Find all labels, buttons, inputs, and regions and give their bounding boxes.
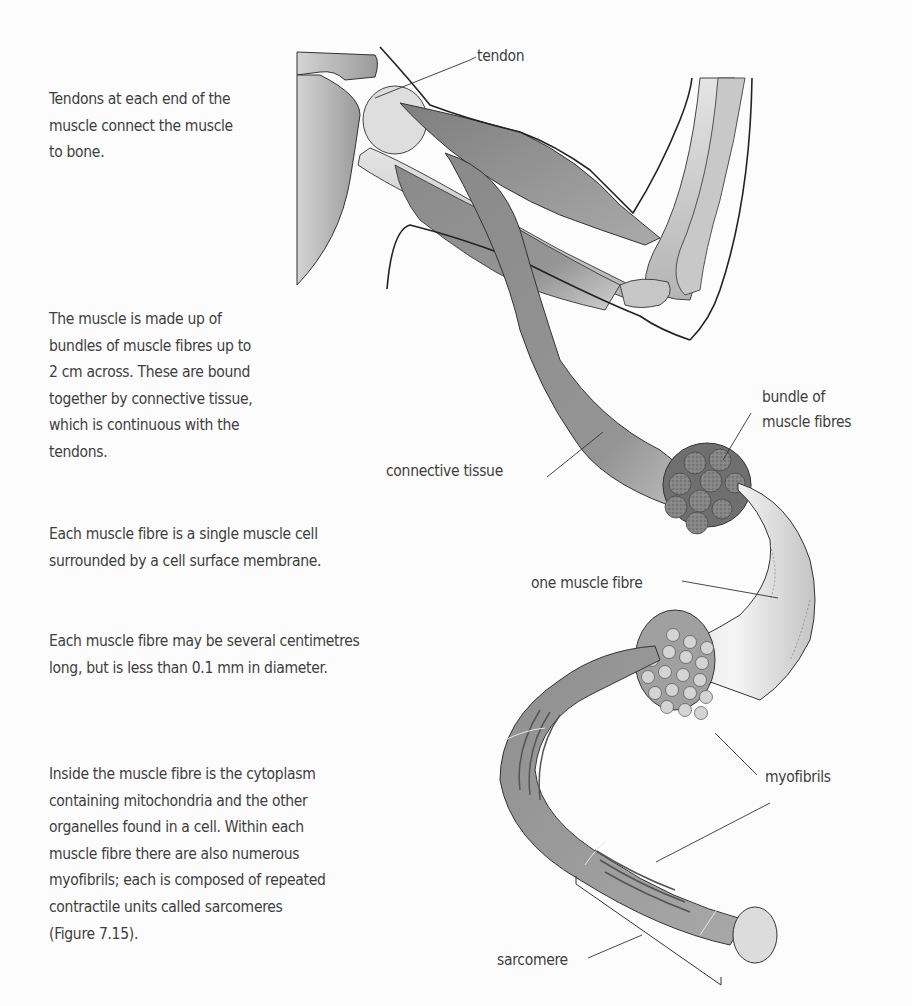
annotation-line: tendons. — [49, 439, 252, 466]
annotation-line: to bone. — [49, 139, 233, 166]
annotation-fibre-size: Each muscle fibre may be several centime… — [49, 628, 360, 681]
label-tendon: tendon — [477, 47, 524, 65]
label-bundle-of-muscle-fibres: bundle of muscle fibres — [762, 385, 851, 435]
annotation-line: which is continuous with the — [49, 412, 252, 439]
annotation-line: (Figure 7.15). — [49, 921, 326, 948]
annotation-line: 2 cm across. These are bound — [49, 359, 252, 386]
label-bundle-line-1: bundle of — [762, 385, 851, 410]
myofibril-body-leader — [656, 803, 770, 862]
annotation-line: contractile units called sarcomeres — [49, 894, 326, 921]
label-myofibrils: myofibrils — [765, 768, 831, 786]
annotation-line: Inside the muscle fibre is the cytoplasm — [49, 761, 326, 788]
annotation-line: long, but is less than 0.1 mm in diamete… — [49, 655, 360, 682]
annotation-line: muscle connect the muscle — [49, 113, 233, 140]
myofibrils-leader — [715, 733, 757, 775]
bundle-leader — [723, 413, 751, 460]
annotation-bundles: The muscle is made up of bundles of musc… — [49, 306, 252, 466]
annotation-line: bundles of muscle fibres up to — [49, 333, 252, 360]
annotation-cytoplasm: Inside the muscle fibre is the cytoplasm… — [49, 761, 326, 947]
annotation-line: together by connective tissue, — [49, 386, 252, 413]
annotation-line: muscle fibre there are also numerous — [49, 841, 326, 868]
label-sarcomere: sarcomere — [497, 951, 568, 969]
annotation-line: Each muscle fibre is a single muscle cel… — [49, 521, 321, 548]
label-bundle-line-2: muscle fibres — [762, 410, 851, 435]
annotation-line: Tendons at each end of the — [49, 86, 233, 113]
tendon-leader — [375, 57, 476, 98]
sarcomere-leader — [588, 935, 642, 958]
annotation-line: The muscle is made up of — [49, 306, 252, 333]
annotation-tendons: Tendons at each end of the muscle connec… — [49, 86, 233, 166]
muscle-bundle-illustration — [445, 153, 815, 985]
annotation-line: containing mitochondria and the other — [49, 788, 326, 815]
annotation-line: Each muscle fibre may be several centime… — [49, 628, 360, 655]
annotation-line: organelles found in a cell. Within each — [49, 814, 326, 841]
annotation-single-cell: Each muscle fibre is a single muscle cel… — [49, 521, 321, 574]
annotation-line: myofibrils; each is composed of repeated — [49, 867, 326, 894]
label-connective-tissue: connective tissue — [386, 462, 503, 480]
annotation-line: surrounded by a cell surface membrane. — [49, 548, 321, 575]
label-one-muscle-fibre: one muscle fibre — [531, 574, 642, 592]
